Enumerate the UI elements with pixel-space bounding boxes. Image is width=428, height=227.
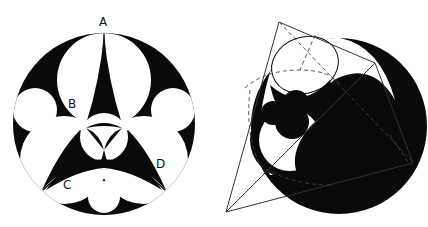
diagram-canvas: A B C D — [0, 0, 428, 227]
small-circle-right — [151, 88, 195, 132]
small-circle-left — [13, 88, 57, 132]
small-circle-bottom — [88, 181, 120, 213]
label-d: D — [156, 157, 165, 171]
tetrahedron-sphere-figure — [226, 22, 427, 214]
label-c: C — [63, 178, 71, 192]
circle-packing-figure: A B C D — [13, 15, 195, 215]
label-a: A — [99, 15, 108, 29]
label-b: B — [68, 97, 76, 111]
